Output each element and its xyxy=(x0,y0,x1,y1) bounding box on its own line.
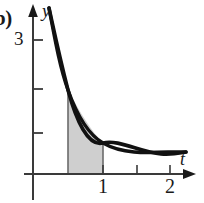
y-axis-label: y xyxy=(42,1,50,20)
t-axis-arrowhead xyxy=(183,169,196,179)
part-label: b) xyxy=(0,8,12,29)
t-tick-label-1: 1 xyxy=(98,176,108,196)
t-axis-label: t xyxy=(180,150,185,168)
y-tick-label-3: 3 xyxy=(14,29,24,48)
figure-container: b) y t 3 1 2 xyxy=(0,0,204,203)
t-tick-label-2: 2 xyxy=(165,176,175,196)
decay-curve-figure xyxy=(0,0,204,203)
y-axis-arrowhead xyxy=(28,4,38,17)
